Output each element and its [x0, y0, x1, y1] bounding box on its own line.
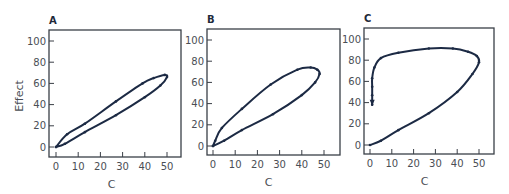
y-tick-label: 0	[198, 141, 204, 152]
x-tick-label: 10	[385, 158, 398, 169]
data-point	[159, 84, 162, 87]
panel-c: C02040608010001020304050C	[342, 13, 494, 188]
data-point	[314, 81, 317, 84]
data-point	[152, 77, 155, 80]
panel-label: B	[207, 14, 215, 25]
data-point	[309, 66, 312, 69]
y-tick-label: 60	[33, 78, 46, 89]
data-point	[272, 113, 275, 116]
data-point	[301, 94, 304, 97]
data-point	[380, 139, 383, 142]
data-point	[428, 47, 431, 50]
y-tick-label: 40	[33, 99, 46, 110]
data-point	[141, 82, 144, 85]
data-point	[221, 127, 224, 130]
x-tick-label: 0	[367, 158, 373, 169]
plot-frame	[49, 30, 181, 157]
y-tick-label: 20	[191, 119, 204, 130]
x-tick-label: 30	[116, 161, 129, 172]
data-point	[115, 114, 118, 117]
data-point	[456, 91, 459, 94]
y-tick-label: 0	[40, 142, 46, 153]
data-point	[269, 83, 272, 86]
data-point	[241, 129, 244, 132]
data-point	[471, 73, 474, 76]
x-tick-label: 10	[72, 161, 85, 172]
x-tick-label: 30	[273, 159, 286, 170]
hysteresis-curve	[370, 48, 479, 145]
data-point	[371, 85, 374, 88]
x-tick-label: 20	[94, 161, 107, 172]
data-point	[428, 112, 431, 115]
x-tick-label: 10	[229, 159, 242, 170]
x-tick-label: 50	[473, 158, 486, 169]
data-point	[369, 144, 372, 147]
data-point	[452, 47, 455, 50]
y-tick-label: 60	[348, 76, 361, 87]
x-tick-label: 40	[295, 159, 308, 170]
x-tick-label: 40	[451, 158, 464, 169]
y-tick-label: 100	[342, 34, 361, 45]
x-axis-title: C	[421, 175, 429, 188]
y-tick-label: 20	[33, 120, 46, 131]
x-tick-label: 0	[210, 159, 216, 170]
data-point	[476, 55, 479, 58]
x-axis-title: C	[108, 178, 116, 191]
y-tick-label: 0	[355, 140, 361, 151]
y-tick-label: 40	[191, 98, 204, 109]
panel-label: C	[364, 13, 371, 24]
y-tick-label: 80	[191, 56, 204, 67]
data-point	[371, 77, 374, 80]
plot-frame	[207, 29, 340, 155]
panel-a: A02040608010001020304050C	[27, 15, 181, 191]
data-point	[241, 108, 244, 111]
x-tick-label: 50	[318, 159, 331, 170]
data-point	[478, 61, 481, 64]
y-tick-label: 20	[348, 118, 361, 129]
data-point	[223, 139, 226, 142]
data-point	[397, 51, 400, 54]
data-point	[318, 73, 321, 76]
y-tick-label: 80	[348, 55, 361, 66]
x-tick-label: 30	[429, 158, 442, 169]
data-point	[66, 133, 69, 136]
data-point	[212, 145, 215, 148]
y-tick-label: 100	[185, 35, 204, 46]
x-tick-label: 20	[251, 159, 264, 170]
data-point	[397, 129, 400, 132]
data-point	[316, 68, 319, 71]
data-point	[214, 139, 217, 142]
data-point	[144, 96, 147, 99]
data-point	[166, 76, 169, 79]
panel-b: B02040608010001020304050C	[185, 14, 340, 189]
arrow-down-icon	[370, 100, 375, 106]
data-point	[55, 146, 58, 149]
data-point	[84, 122, 87, 125]
data-point	[371, 94, 374, 97]
x-tick-label: 50	[161, 161, 174, 172]
y-tick-label: 80	[33, 57, 46, 68]
data-point	[373, 66, 376, 69]
y-tick-label: 40	[348, 97, 361, 108]
data-point	[296, 68, 299, 71]
y-tick-label: 100	[27, 36, 46, 47]
x-tick-label: 40	[138, 161, 151, 172]
hysteresis-figure: Effect A02040608010001020304050CB0204060…	[0, 0, 509, 194]
x-tick-label: 0	[53, 161, 59, 172]
data-point	[115, 100, 118, 103]
data-point	[467, 50, 470, 53]
y-tick-label: 60	[191, 77, 204, 88]
data-point	[84, 131, 87, 134]
panel-label: A	[49, 15, 57, 26]
hysteresis-curve	[213, 67, 320, 146]
x-axis-title: C	[265, 176, 273, 189]
plot-frame	[364, 28, 494, 154]
data-point	[64, 143, 67, 146]
x-tick-label: 20	[407, 158, 420, 169]
hysteresis-curve	[56, 75, 167, 147]
y-axis-title: Effect	[13, 79, 26, 111]
data-point	[163, 74, 166, 77]
data-point	[380, 57, 383, 60]
